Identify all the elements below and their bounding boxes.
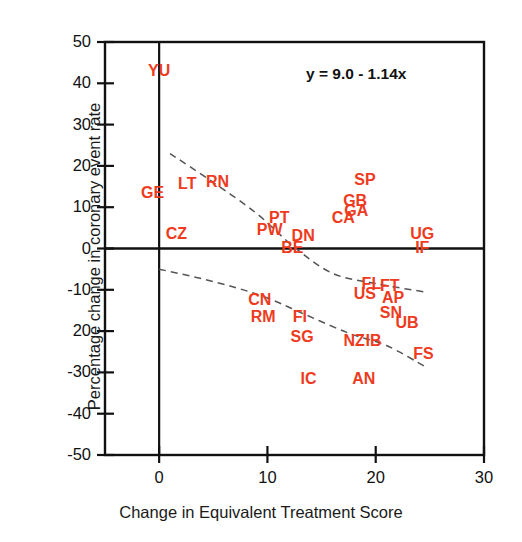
y-axis-tick-label: 40 (45, 74, 91, 90)
data-point-label-cz: CZ (166, 226, 187, 242)
data-point-label-ge: GE (141, 185, 164, 201)
data-point-label-gb: GB (343, 193, 367, 209)
data-point-label-fi: FI (293, 309, 307, 325)
y-axis-tick-label: 30 (45, 116, 91, 132)
x-axis-title: Change in Equivalent Treatment Score (0, 503, 522, 522)
data-point-label-ic: IC (301, 371, 317, 387)
y-axis-tick-label: -10 (45, 281, 91, 297)
y-axis-tick-label: -40 (45, 405, 91, 421)
scatter-plot-figure: Percentage change in coronary event rate… (0, 0, 522, 542)
data-point-label-yu: YU (148, 63, 170, 79)
data-point-label-us: US (354, 286, 376, 302)
regression-equation-text: y = 9.0 - 1.14x (306, 65, 406, 83)
data-point-label-pw: PW (257, 222, 283, 238)
data-point-label-ib: IB (366, 333, 382, 349)
y-axis-tick-label: 0 (45, 240, 91, 256)
data-point-label-sp: SP (354, 172, 375, 188)
x-axis-tick-label: 0 (136, 469, 182, 485)
data-point-label-ub: UB (396, 315, 419, 331)
data-point-label-fs: FS (413, 346, 433, 362)
x-axis-tick-label: 30 (461, 469, 507, 485)
data-point-label-if: IF (415, 240, 429, 256)
data-point-label-rm: RM (251, 309, 276, 325)
data-point-label-an: AN (352, 371, 375, 387)
y-axis-tick-label: 20 (45, 322, 91, 338)
y-axis-tick-label: -30 (45, 363, 91, 379)
data-point-label-cn: CN (248, 292, 271, 308)
y-axis-tick-label: -50 (45, 446, 91, 462)
data-point-label-sg: SG (291, 329, 314, 345)
data-point-label-nz: NZ (343, 333, 364, 349)
data-point-label-dn: DN (292, 228, 315, 244)
y-axis-tick-label: 10 (45, 198, 91, 214)
x-axis-tick-label: 10 (244, 469, 290, 485)
x-axis-tick-label: 20 (353, 469, 399, 485)
y-axis-tick-label: 50 (45, 33, 91, 49)
data-point-label-lt: LT (178, 176, 196, 192)
y-axis-tick-label: 20 (45, 157, 91, 173)
data-point-label-rn: RN (206, 174, 229, 190)
